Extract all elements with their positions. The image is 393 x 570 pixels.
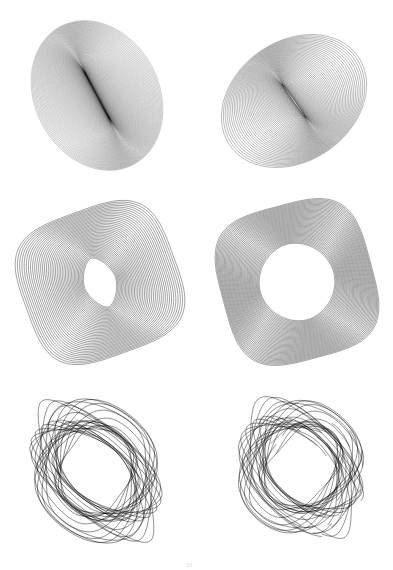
curve-family [23,385,168,556]
curve-family [239,397,364,539]
curve-family [203,187,390,377]
curve-panel-c [20,205,180,360]
curve-panel-e [22,392,170,550]
curve-panel-b [216,28,372,174]
curve-family [6,0,189,193]
curve-family [1,186,198,378]
curve-family [196,7,393,195]
page-number: 15 [186,562,192,568]
curve-panel-a [22,18,172,173]
curve-panel-d [218,203,376,361]
curve-panel-f [226,392,376,542]
